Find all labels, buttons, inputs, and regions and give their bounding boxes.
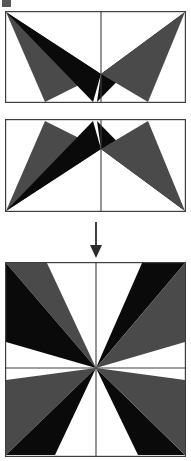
combined-figure-canvas [5,262,186,457]
downward-arrow-icon [0,218,191,260]
arrow-head [90,245,102,258]
scan-artifact-smudge [2,0,11,7]
lower-source-figure [5,119,186,212]
combined-star-figure [5,262,186,457]
upper-figure-canvas [5,11,186,103]
upper-source-figure [5,11,186,103]
arrow-region [0,218,191,260]
figure-stack [0,0,191,461]
lower-figure-canvas [5,119,186,212]
